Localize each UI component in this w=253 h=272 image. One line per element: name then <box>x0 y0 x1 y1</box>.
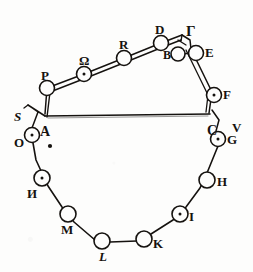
node-label-P: P <box>41 69 49 82</box>
free-marks <box>48 144 52 148</box>
node-label-O: O <box>14 136 24 149</box>
lower-loop-right <box>137 146 218 241</box>
upper-rail-inner <box>47 40 181 117</box>
node-label-Omega: Ω <box>79 54 89 67</box>
free-mark-center-dot <box>48 144 52 148</box>
chain-node-center-dot-I <box>179 213 182 216</box>
node-label-D: D <box>155 23 164 36</box>
vertex-label-V: V <box>232 121 241 134</box>
chain-diagram-figure: PΩRDBEFGHIKLMИO ΓACSV <box>0 0 253 272</box>
node-label-F: F <box>223 88 231 101</box>
chain-node-center-dot-N <box>41 177 44 180</box>
chain-node-ring-L <box>94 233 110 249</box>
node-label-K: K <box>153 237 163 250</box>
gamma-elbow-inner <box>178 40 186 45</box>
s-tick <box>24 105 28 108</box>
node-label-M: M <box>61 223 73 236</box>
chain-node-ring-H <box>199 172 215 188</box>
chain-node-ring-K <box>136 231 152 247</box>
node-label-L: L <box>99 250 107 263</box>
vertex-label-A: A <box>40 125 50 139</box>
upper-apex-connector <box>181 35 182 41</box>
vertex-label-C: C <box>207 124 217 138</box>
chain-node-center-dot-Omega <box>83 73 86 76</box>
vertex-label-S: S <box>14 110 21 123</box>
baseline-a-c <box>45 114 210 116</box>
node-label-N: И <box>27 187 37 200</box>
chain-node-ring-B <box>171 47 185 61</box>
node-label-B: B <box>163 49 171 61</box>
chain-node-ring-M <box>60 206 76 222</box>
chain-node-center-dot-F <box>213 94 216 97</box>
node-label-H: H <box>217 175 227 188</box>
vertex-label-Gamma: Γ <box>186 24 196 39</box>
chain-node-ring-R <box>117 51 132 66</box>
chain-node-center-dot-O <box>31 134 34 137</box>
node-center-dots <box>31 73 220 216</box>
chain-node-ring-E <box>189 46 204 61</box>
node-label-I: I <box>189 210 194 223</box>
node-label-E: E <box>205 46 214 59</box>
node-label-R: R <box>119 38 128 51</box>
node-rings <box>25 36 226 250</box>
